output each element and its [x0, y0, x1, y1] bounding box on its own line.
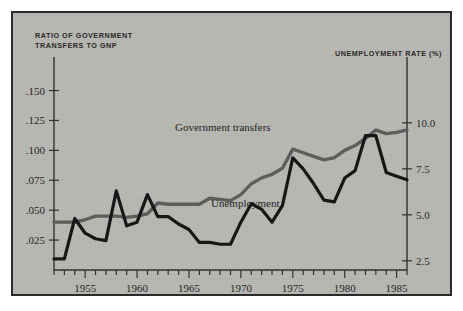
plot-area: .025.050.075.100.125.150 2.55.07.510.0 1…: [13, 13, 450, 294]
figure: RATIO OF GOVERNMENT TRANSFERS TO GNP UNE…: [0, 0, 463, 311]
line-unemployment: [54, 136, 407, 259]
line-government-transfers: [54, 130, 407, 222]
svg-text:1985: 1985: [386, 282, 409, 294]
svg-text:.050: .050: [26, 204, 46, 216]
svg-text:1975: 1975: [282, 282, 305, 294]
x-axis: 1955196019651970197519801985: [54, 270, 408, 294]
svg-text:1980: 1980: [334, 282, 357, 294]
svg-text:.150: .150: [26, 85, 46, 97]
chart-plate: RATIO OF GOVERNMENT TRANSFERS TO GNP UNE…: [11, 11, 452, 296]
svg-text:.025: .025: [26, 234, 46, 246]
svg-text:.125: .125: [26, 114, 46, 126]
svg-text:1970: 1970: [230, 282, 253, 294]
y-axis-left: .025.050.075.100.125.150: [26, 57, 59, 270]
svg-text:1965: 1965: [178, 282, 201, 294]
y-axis-right: 2.55.07.510.0: [402, 57, 436, 270]
svg-text:10.0: 10.0: [416, 117, 436, 129]
svg-text:5.0: 5.0: [416, 209, 430, 221]
svg-text:7.5: 7.5: [416, 163, 430, 175]
svg-text:.100: .100: [26, 144, 46, 156]
svg-text:1955: 1955: [74, 282, 97, 294]
svg-text:1960: 1960: [126, 282, 149, 294]
svg-text:2.5: 2.5: [416, 255, 430, 267]
svg-text:.075: .075: [26, 174, 46, 186]
